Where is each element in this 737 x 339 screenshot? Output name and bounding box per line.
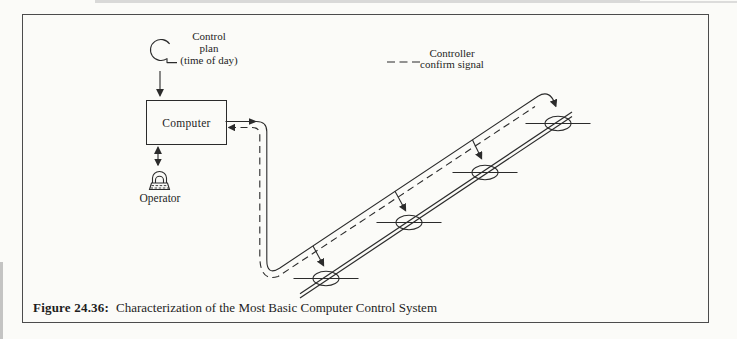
command-line-arrowhead [249,118,257,125]
confirm-signal-legend: Controller confirm signal [414,48,490,70]
control-plan-label: Control plan (time of day) [170,31,248,68]
figure-caption-text: Characterization of the Most Basic Compu… [116,300,437,315]
figure-caption-label: Figure 24.36: [33,300,109,315]
cross-streets [294,124,591,279]
figure-page: Control plan (time of day) Computer Oper… [0,0,737,339]
control-plan-line3: (time of day) [170,55,248,66]
legend-line2: confirm signal [414,59,490,70]
operator-label: Operator [134,193,186,205]
command-arrow-1 [313,246,324,266]
operator-icon [150,172,170,190]
control-plan-line2: plan [170,43,248,54]
confirm-signal-line [229,107,535,278]
signal-intersections [313,116,571,285]
arterial-road [300,112,572,298]
command-line [226,94,556,271]
computer-node: Computer [146,100,227,145]
command-arrow-2 [395,191,406,210]
computer-label: Computer [162,117,210,129]
control-plan-line1: Control [170,31,248,42]
figure-caption: Figure 24.36:Characterization of the Mos… [33,300,437,316]
diagram-canvas [0,0,737,339]
